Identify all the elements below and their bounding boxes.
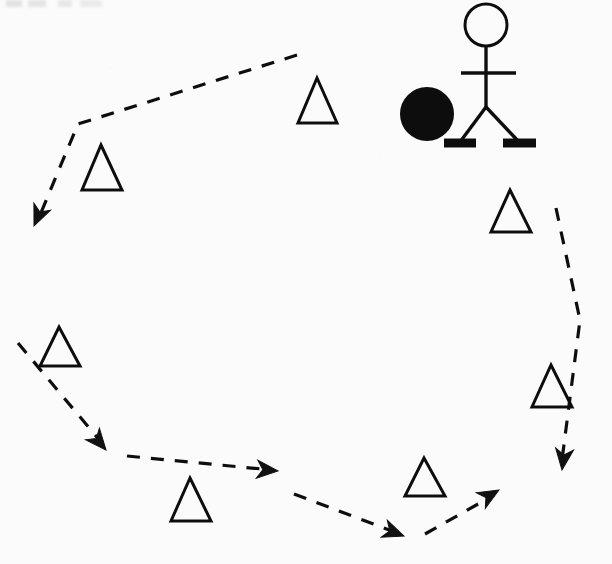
arrow-4-head bbox=[381, 520, 407, 544]
path-segment-5 bbox=[425, 495, 494, 534]
arrow-2-head bbox=[86, 428, 113, 456]
arrow-2 bbox=[86, 428, 113, 456]
cone-triangle bbox=[82, 145, 122, 190]
arrowhead-layer bbox=[26, 203, 574, 544]
player-right-leg bbox=[486, 107, 519, 142]
arrow-4 bbox=[381, 520, 407, 544]
arrow-3 bbox=[256, 460, 278, 480]
cone-triangle bbox=[298, 78, 337, 123]
path-segment-1 bbox=[40, 55, 297, 215]
cone-triangle bbox=[532, 365, 572, 407]
arrow-5 bbox=[476, 482, 503, 508]
arrow-1-head bbox=[26, 203, 51, 229]
player-left-leg bbox=[460, 107, 486, 142]
player-layer bbox=[401, 4, 536, 143]
path-segment-4 bbox=[294, 494, 400, 534]
ball bbox=[401, 88, 453, 140]
path-segment-2 bbox=[18, 343, 101, 442]
arrow-3-head bbox=[256, 460, 278, 480]
path-segment-3 bbox=[127, 456, 272, 470]
cone-triangle bbox=[491, 190, 531, 232]
path-layer bbox=[18, 55, 580, 534]
diagram-canvas bbox=[0, 0, 612, 564]
cone-triangle bbox=[171, 478, 211, 521]
path-segment-6 bbox=[556, 208, 580, 460]
cone-triangle bbox=[40, 327, 80, 366]
arrow-1 bbox=[26, 203, 51, 229]
cone-layer bbox=[40, 78, 572, 521]
cone-triangle bbox=[405, 458, 445, 496]
player-head bbox=[465, 4, 507, 46]
arrow-5-head bbox=[476, 482, 503, 508]
diagram-svg bbox=[0, 0, 612, 564]
